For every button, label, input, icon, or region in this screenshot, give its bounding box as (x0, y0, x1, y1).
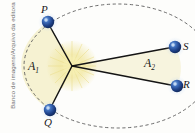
area-label-a2: A2 (144, 57, 155, 72)
area-label-a1-sub: 1 (35, 66, 39, 75)
point-label-q: Q (44, 117, 52, 128)
area-label-a1: A1 (28, 60, 39, 75)
figure-container: P Q S R A1 A2 Banco de imagens/Arquivo d… (0, 0, 195, 133)
image-credit: Banco de imagens/Arquivo da editora (9, 0, 16, 120)
point-q-sphere (44, 104, 56, 116)
point-r-highlight (173, 82, 176, 85)
point-p-highlight (44, 18, 47, 21)
point-label-r: R (183, 79, 190, 90)
point-p-sphere (42, 16, 54, 28)
point-q-highlight (46, 106, 49, 109)
point-s-sphere (169, 41, 181, 53)
point-r-sphere (171, 80, 183, 92)
point-label-p: P (41, 4, 48, 15)
area-label-a2-sub: 2 (151, 63, 155, 72)
point-label-s: S (183, 41, 189, 52)
point-s-highlight (171, 43, 174, 46)
